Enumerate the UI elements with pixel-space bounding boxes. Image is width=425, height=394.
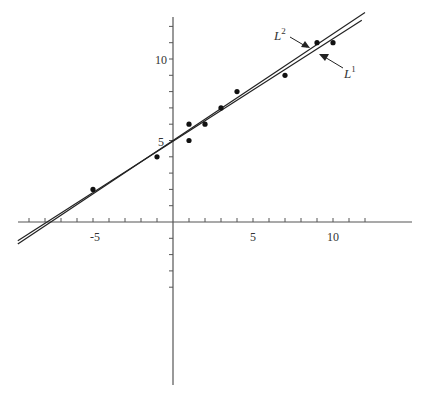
fit-line-l1 xyxy=(18,20,362,240)
L2-label-sup: 2 xyxy=(281,26,286,36)
x-tick-label-5: 5 xyxy=(250,230,256,244)
data-point xyxy=(90,187,95,192)
fit-line-l2 xyxy=(18,12,365,244)
svg-text:L1: L1 xyxy=(343,64,356,81)
data-point xyxy=(234,89,239,94)
y-tick-label-10: 10 xyxy=(155,53,167,67)
annotation-L1: L1 xyxy=(319,54,356,81)
data-point xyxy=(314,40,319,45)
data-point xyxy=(154,154,159,159)
L2-label-base: L xyxy=(273,28,281,43)
data-point xyxy=(218,105,223,110)
L1-label-sup: 1 xyxy=(351,64,356,74)
data-point xyxy=(282,73,287,78)
x-tick-label-neg5: -5 xyxy=(90,230,100,244)
data-point xyxy=(202,122,207,127)
L1-arrowhead xyxy=(319,54,329,61)
x-tick-label-10: 10 xyxy=(327,230,339,244)
data-point xyxy=(186,138,191,143)
regression-chart: -5 5 10 5 10 L2 L1 xyxy=(0,0,425,394)
data-point xyxy=(330,40,335,45)
annotation-L2: L2 xyxy=(273,26,310,48)
fit-lines xyxy=(18,12,365,244)
data-point xyxy=(186,122,191,127)
L1-label-base: L xyxy=(343,66,351,81)
svg-text:L2: L2 xyxy=(273,26,286,43)
